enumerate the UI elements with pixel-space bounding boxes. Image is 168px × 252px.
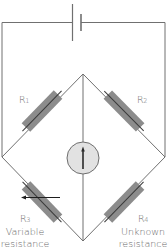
r4-name: R4 [117, 213, 168, 226]
r1-subscript: 1 [25, 97, 29, 105]
r4-description-line1: Unknown [117, 226, 168, 238]
r4-label: R4 Unknown resistance [117, 213, 168, 249]
r4-subscript: 4 [144, 216, 148, 224]
r3-description-line2: resistance [0, 238, 50, 250]
r1-label: R1 [19, 94, 29, 107]
battery-icon [73, 4, 82, 41]
r2-label: R2 [137, 94, 147, 107]
r3-label: R3 Variable resistance [0, 213, 50, 249]
galvanometer-icon [67, 142, 99, 174]
r3-description-line1: Variable [0, 226, 50, 238]
r2-subscript: 2 [143, 97, 147, 105]
r3-subscript: 3 [26, 216, 30, 224]
r4-description-line2: resistance [117, 238, 168, 250]
r3-name: R3 [0, 213, 50, 226]
